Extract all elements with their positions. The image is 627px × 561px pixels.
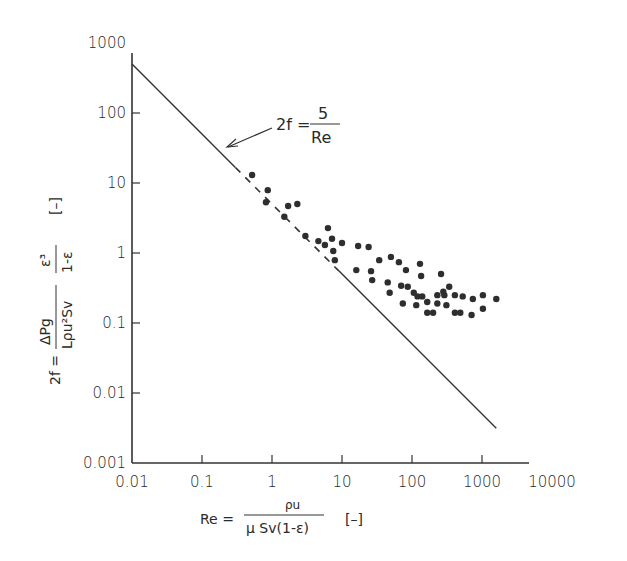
annotation-denominator: Re	[311, 128, 331, 147]
data-point	[294, 201, 300, 207]
data-point	[385, 279, 391, 285]
data-point	[424, 299, 430, 305]
x-tick-label: 100	[398, 473, 427, 491]
data-point	[365, 244, 371, 250]
data-point	[457, 310, 463, 316]
annotation-numerator: 5	[318, 104, 328, 123]
data-point	[403, 267, 409, 273]
data-point	[418, 273, 424, 279]
data-point	[353, 267, 359, 273]
data-point	[386, 290, 392, 296]
data-point	[434, 292, 440, 298]
data-point	[430, 310, 436, 316]
x-label-unit: [–]	[345, 511, 363, 527]
annotation-left: 2f =	[276, 115, 310, 134]
x-tick-label: 10000	[528, 473, 576, 491]
data-point	[419, 293, 425, 299]
data-point	[413, 302, 419, 308]
y-label-unit: [–]	[47, 197, 63, 215]
data-point	[376, 257, 382, 263]
y-axis-label: 2f = ΔPg Lρu²Sv ε³ 1-ε [–]	[37, 197, 75, 385]
y-label-numerator-2: ε³	[37, 254, 53, 267]
data-point	[441, 292, 447, 298]
y-label-numerator-1: ΔPg	[37, 318, 53, 345]
x-tick-label: 1	[267, 473, 277, 491]
y-tick-label: 0.001	[83, 454, 126, 472]
data-point	[480, 292, 486, 298]
data-point	[470, 296, 476, 302]
data-point	[285, 203, 291, 209]
data-point	[459, 293, 465, 299]
x-tick-label: 10	[332, 473, 351, 491]
data-point	[330, 248, 336, 254]
data-point	[368, 268, 374, 274]
data-point	[434, 300, 440, 306]
data-point	[480, 306, 486, 312]
data-point	[468, 312, 474, 318]
y-label-denominator-2: 1-ε	[59, 251, 75, 273]
x-label-prefix: Re =	[200, 511, 234, 527]
data-point	[302, 233, 308, 239]
x-tick-label: 0.01	[115, 473, 148, 491]
annotation-arrow-shaft	[228, 128, 272, 147]
data-point	[493, 296, 499, 302]
y-label-prefix: 2f =	[47, 355, 63, 385]
data-point	[396, 259, 402, 265]
y-tick-label: 10	[107, 174, 126, 192]
y-label-denominator-1: Lρu²Sv	[59, 301, 75, 349]
data-point	[424, 310, 430, 316]
data-point	[249, 172, 255, 178]
data-point	[332, 257, 338, 263]
data-point	[369, 277, 375, 283]
data-point	[329, 236, 335, 242]
x-axis-label: Re = ρu μ Sv(1-ε) [–]	[200, 498, 363, 536]
data-points	[249, 172, 500, 318]
data-point	[438, 271, 444, 277]
data-point	[405, 284, 411, 290]
data-point	[446, 284, 452, 290]
friction-factor-chart: 0.010.1110100100010000 0.0010.010.111010…	[0, 0, 627, 561]
data-point	[263, 199, 269, 205]
y-tick-label: 1	[116, 244, 126, 262]
data-point	[339, 240, 345, 246]
data-point	[281, 214, 287, 220]
data-point	[417, 261, 423, 267]
x-label-numerator: ρu	[285, 498, 300, 512]
reference-line-dashed	[235, 167, 338, 270]
x-tick-label: 0.1	[190, 473, 214, 491]
y-tick-label: 100	[97, 104, 126, 122]
data-point	[315, 238, 321, 244]
reference-line-2f-5-over-re	[132, 64, 496, 428]
data-point	[322, 242, 328, 248]
data-point	[325, 225, 331, 231]
data-point	[400, 300, 406, 306]
x-label-denominator: μ Sv(1-ε)	[246, 520, 309, 536]
data-point	[355, 243, 361, 249]
data-point	[452, 292, 458, 298]
reference-line-solid	[132, 64, 235, 167]
x-tick-label: 1000	[463, 473, 501, 491]
data-point	[265, 187, 271, 193]
y-axis: 0.0010.010.11101001000	[83, 34, 140, 472]
data-point	[388, 254, 394, 260]
data-point	[443, 302, 449, 308]
x-axis: 0.010.1110100100010000	[115, 455, 576, 491]
line-annotation: 2f = 5 Re	[227, 104, 340, 147]
y-tick-label: 1000	[88, 34, 126, 52]
y-tick-label: 0.01	[93, 384, 126, 402]
y-tick-label: 0.1	[102, 314, 126, 332]
data-point	[398, 283, 404, 289]
